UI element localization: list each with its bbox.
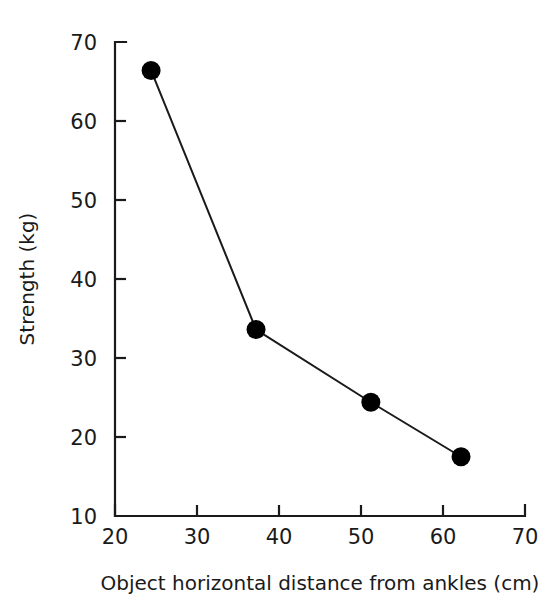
x-tick-label: 50 [348, 525, 375, 549]
data-point-marker [452, 447, 471, 466]
y-tick-label: 20 [70, 426, 97, 450]
data-point-marker [361, 393, 380, 412]
x-tick-label: 30 [184, 525, 211, 549]
y-axis-title: Strength (kg) [15, 213, 39, 346]
x-tick-label: 40 [266, 525, 293, 549]
data-point-marker [247, 320, 266, 339]
chart-container: 10203040506070 203040506070 Strength (kg… [0, 0, 560, 608]
x-tick-label: 20 [102, 525, 129, 549]
x-axis-title: Object horizontal distance from ankles (… [101, 571, 540, 595]
y-tick-label: 60 [70, 110, 97, 134]
x-tick-label: 60 [430, 525, 457, 549]
y-tick-label: 10 [70, 505, 97, 529]
y-tick-label: 50 [70, 189, 97, 213]
y-tick-label: 40 [70, 268, 97, 292]
line-chart: 10203040506070 203040506070 Strength (kg… [0, 0, 560, 608]
x-tick-label: 70 [512, 525, 539, 549]
data-point-marker [142, 61, 161, 80]
y-tick-label: 30 [70, 347, 97, 371]
y-tick-label: 70 [70, 31, 97, 55]
